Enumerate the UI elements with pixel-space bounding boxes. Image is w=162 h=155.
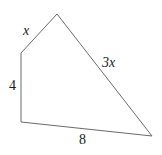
quadrilateral-outline xyxy=(21,14,152,136)
side-label-right: 3x xyxy=(102,56,115,70)
side-label-upper-left: x xyxy=(23,24,29,38)
geometry-figure: x 4 8 3x xyxy=(0,0,162,155)
side-label-left: 4 xyxy=(9,79,16,93)
side-label-bottom: 8 xyxy=(79,133,86,147)
